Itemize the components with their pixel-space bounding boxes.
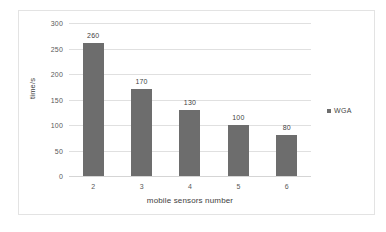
x-axis-title: mobile sensors number [69,196,311,205]
xtick-label: 3 [140,183,144,190]
ytick-label-100: 100 [51,122,63,129]
xtick-label: 5 [236,183,240,190]
bar-wga-2[interactable] [83,43,104,176]
bar-wga-6[interactable] [276,135,297,176]
xtick-label: 4 [188,183,192,190]
legend-label-wga: WGA [334,107,352,114]
bar-value: 170 [135,78,147,85]
bar-value: 80 [283,124,291,131]
bar-group: 130 4 [166,23,214,176]
xtick-label: 2 [91,183,95,190]
bar-wga-5[interactable] [228,125,249,176]
ytick-label-200: 200 [51,71,63,78]
bar-value: 130 [184,99,196,106]
bar-group: 170 3 [117,23,165,176]
ytick-label-50: 50 [55,147,63,154]
gridline-0: 0 [69,176,311,177]
bar-group: 80 6 [263,23,311,176]
bar-wga-3[interactable] [131,89,152,176]
ytick-label-250: 250 [51,45,63,52]
ytick-label-150: 150 [51,96,63,103]
bar-group: 260 2 [69,23,117,176]
legend-swatch-icon [327,109,331,113]
chart-legend: WGA [327,107,352,114]
plot-area: 300 250 200 150 100 50 0 260 2 1 [69,23,311,176]
bar-value: 100 [232,114,244,121]
ytick-label-300: 300 [51,20,63,27]
bar-group: 100 5 [214,23,262,176]
ytick-label-0: 0 [59,173,63,180]
xtick-label: 6 [285,183,289,190]
bars-layer: 260 2 170 3 130 4 100 5 80 [69,23,311,176]
y-axis-title: time/s [28,78,37,99]
chart-frame: 300 250 200 150 100 50 0 260 2 1 [18,10,375,215]
bar-wga-4[interactable] [179,110,200,176]
bar-value: 260 [87,32,99,39]
